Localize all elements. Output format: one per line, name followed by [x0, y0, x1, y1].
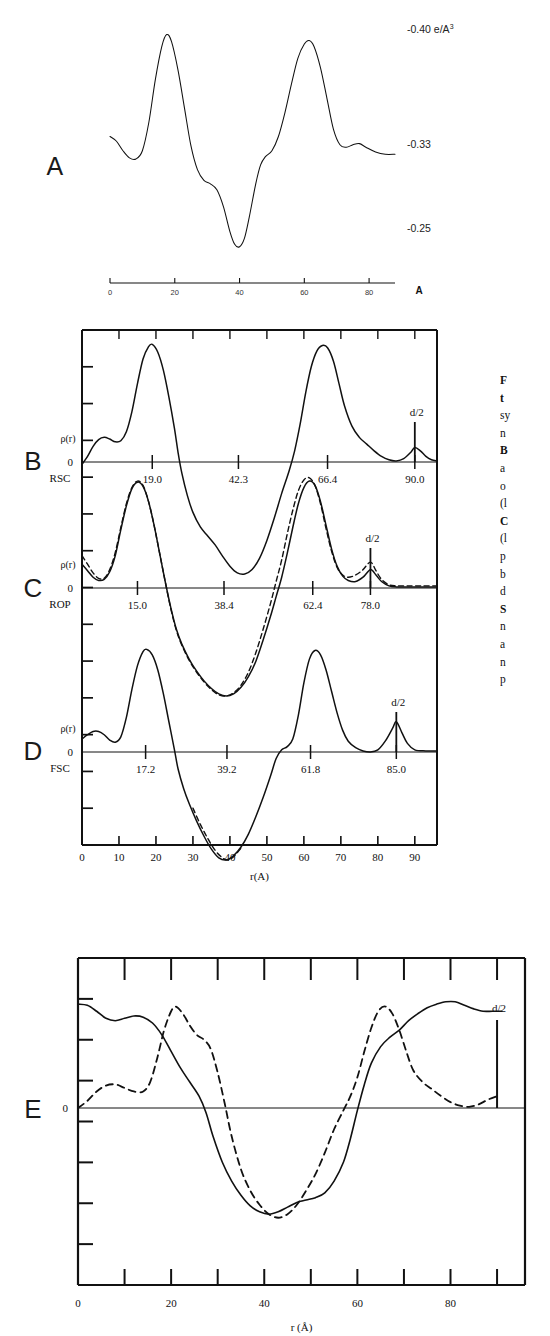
panelE-dhalf-label: d/2 [492, 1002, 506, 1014]
caption-line: o [500, 478, 550, 496]
panelB-r-tick-label: 19.0 [143, 473, 163, 485]
panelD-x-tick-label: 90 [409, 851, 421, 863]
panelC-r-tick-label: 78.0 [361, 599, 381, 611]
panelD-series-name: FSC [50, 762, 70, 774]
panelC-r-tick-label: 62.4 [303, 599, 323, 611]
caption-line: b [500, 566, 550, 584]
caption-line: C [500, 513, 550, 531]
panelC-solid-curve [82, 481, 437, 696]
panelA-axis-unit-label: A [415, 285, 422, 296]
panelA-x-tick-label: 80 [365, 288, 373, 297]
caption-line: n [500, 425, 550, 443]
panelB-series-name: RSC [50, 472, 71, 484]
panelD-zero-label: 0 [68, 746, 74, 758]
panelC-zero-label: 0 [68, 582, 74, 594]
panelD-x-tick-label: 30 [187, 851, 199, 863]
panelD-dhalf-label: d/2 [391, 696, 405, 708]
panelD-x-axis-label: r(A) [250, 870, 269, 883]
panelD-x-tick-label: 50 [261, 851, 273, 863]
panelD-rho-label: ρ(r) [61, 723, 76, 735]
panelB-rho-label: ρ(r) [61, 433, 76, 445]
figure-root: 020406080A-0.40 e/A3-0.33-0.25A010203040… [0, 0, 550, 1336]
panelA-x-tick-label: 20 [171, 288, 179, 297]
panelD-x-tick-label: 10 [113, 851, 125, 863]
panelE-x-tick-label: 60 [352, 1297, 364, 1309]
caption-line: n [500, 618, 550, 636]
caption-line: (l [500, 495, 550, 513]
panelE-x-tick-label: 80 [445, 1297, 457, 1309]
panelA-y-label: -0.25 [407, 222, 431, 234]
panel-letter-A: A [46, 152, 63, 180]
panelD-x-tick-label: 70 [335, 851, 347, 863]
panelA-x-tick-label: 0 [108, 288, 112, 297]
caption-line: S [500, 601, 550, 619]
caption-line: F [500, 372, 550, 390]
caption-line: p [500, 671, 550, 689]
panelA-x-tick-label: 40 [235, 288, 243, 297]
caption-line: sy [500, 407, 550, 425]
caption-line: B [500, 442, 550, 460]
panelA-y-label: -0.33 [407, 138, 431, 150]
panelD-solid-curve [82, 649, 437, 860]
panelC-r-tick-label: 38.4 [214, 599, 234, 611]
panelC-rho-label: ρ(r) [61, 559, 76, 571]
panelD-r-tick-label: 39.2 [217, 763, 236, 775]
panelE-x-axis-label: r (Å) [291, 1321, 313, 1334]
figure-caption: FtsynBao(lC(lpbdSnanp [500, 372, 550, 702]
panelE-dashed-curve [78, 1006, 497, 1217]
panelD-r-tick-label: 17.2 [136, 763, 155, 775]
panelB-dhalf-label: d/2 [410, 406, 424, 418]
panelB-r-tick-label: 42.3 [229, 473, 249, 485]
panelB-solid-curve [82, 344, 437, 574]
caption-line: (l [500, 530, 550, 548]
panelD-x-tick-label: 20 [150, 851, 162, 863]
panelC-dhalf-label: d/2 [365, 532, 379, 544]
panelB-r-tick-label: 90.0 [405, 473, 425, 485]
panelD-letter: D [24, 736, 43, 766]
panelE-x-tick-label: 20 [166, 1297, 178, 1309]
panelC-series-name: ROP [49, 598, 70, 610]
panelB-r-tick-label: 66.4 [318, 473, 338, 485]
panelE-zero-label: 0 [63, 1102, 69, 1114]
panelB-letter: B [24, 446, 41, 476]
caption-line: a [500, 460, 550, 478]
panelD-r-tick-label: 61.8 [301, 763, 321, 775]
caption-line: d [500, 583, 550, 601]
panelB-zero-label: 0 [68, 456, 74, 468]
panelC-r-tick-label: 15.0 [128, 599, 148, 611]
panelD-x-tick-label: 80 [372, 851, 384, 863]
caption-line: p [500, 548, 550, 566]
panelE-x-tick-label: 40 [259, 1297, 271, 1309]
caption-line: t [500, 390, 550, 408]
panelA-x-tick-label: 60 [300, 288, 308, 297]
panelC-letter: C [24, 573, 43, 603]
caption-line: a [500, 636, 550, 654]
panelE-x-tick-label: 0 [75, 1297, 81, 1309]
panelD-x-tick-label: 0 [79, 851, 85, 863]
caption-line: n [500, 654, 550, 672]
panelC-dashed-curve [82, 477, 437, 696]
panelD-x-tick-label: 60 [298, 851, 310, 863]
panelE-letter: E [24, 1094, 41, 1124]
panelA-density-curve [110, 34, 395, 247]
figure-canvas: 020406080A-0.40 e/A3-0.33-0.25A010203040… [0, 0, 550, 1336]
panelA-y-label: -0.40 e/A3 [407, 23, 454, 35]
panelD-r-tick-label: 85.0 [387, 763, 407, 775]
